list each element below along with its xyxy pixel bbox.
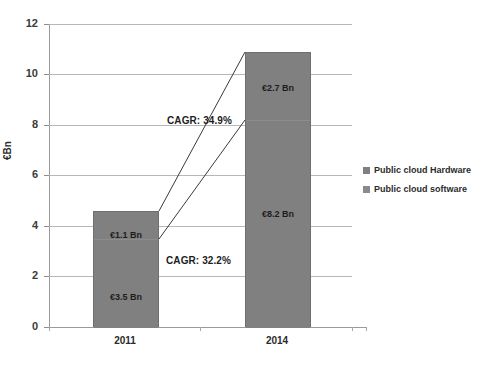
bar-2014[interactable]: €2.7 Bn €8.2 Bn (245, 52, 311, 327)
y-tick-label-0: 0 (32, 321, 38, 332)
bar-2014-hardware-label: €2.7 Bn (246, 83, 310, 93)
tick-mark-2 (44, 276, 49, 277)
y-tick-6: 6 (0, 169, 38, 181)
y-tick-10: 10 (0, 68, 38, 80)
legend-item-hardware[interactable]: Public cloud Hardware (363, 166, 483, 175)
x-tick-mid (200, 327, 201, 331)
stacked-bar-chart: €Bn 12 10 8 6 4 2 0 €1.1 Bn (0, 0, 486, 369)
y-tick-label-8: 8 (32, 119, 38, 130)
bar-2011-segment-software[interactable]: €3.5 Bn (94, 240, 158, 328)
tick-mark-8 (44, 125, 49, 126)
x-category-2014: 2014 (244, 335, 310, 346)
legend-label-software: Public cloud software (374, 185, 467, 194)
tick-mark-12 (44, 24, 49, 25)
y-tick-label-12: 12 (26, 18, 38, 29)
plot-area: €1.1 Bn €3.5 Bn €2.7 Bn €8.2 Bn (49, 24, 352, 327)
x-category-2011: 2011 (92, 335, 158, 346)
legend-swatch-icon-hardware (363, 167, 370, 174)
y-tick-0: 0 (0, 321, 38, 333)
y-tick-12: 12 (0, 18, 38, 30)
bar-2014-segment-hardware[interactable]: €2.7 Bn (246, 53, 310, 121)
bar-2011-software-label: €3.5 Bn (94, 292, 158, 302)
y-tick-label-6: 6 (32, 169, 38, 180)
tick-mark-10 (44, 74, 49, 75)
bar-2011-hardware-label: €1.1 Bn (94, 230, 158, 240)
x-tick-far (366, 327, 367, 331)
y-tick-8: 8 (0, 119, 38, 131)
y-tick-label-4: 4 (32, 220, 38, 231)
bar-2011-segment-hardware[interactable]: €1.1 Bn (94, 212, 158, 240)
y-tick-4: 4 (0, 220, 38, 232)
y-tick-2: 2 (0, 270, 38, 282)
x-tick-start (49, 327, 50, 331)
bar-2011[interactable]: €1.1 Bn €3.5 Bn (93, 211, 159, 327)
y-tick-label-2: 2 (32, 270, 38, 281)
tick-mark-4 (44, 226, 49, 227)
bar-2014-segment-software[interactable]: €8.2 Bn (246, 121, 310, 328)
legend-item-software[interactable]: Public cloud software (363, 185, 483, 194)
gridline-12 (49, 24, 352, 25)
cagr-annotation-upper: CAGR: 34.9% (167, 115, 232, 126)
tick-mark-6 (44, 175, 49, 176)
x-tick-end (352, 327, 353, 331)
bar-2014-software-label: €8.2 Bn (246, 209, 310, 219)
legend-label-hardware: Public cloud Hardware (374, 166, 471, 175)
cagr-annotation-lower: CAGR: 32.2% (163, 254, 234, 267)
legend-swatch-icon-software (363, 186, 370, 193)
y-tick-label-10: 10 (26, 68, 38, 79)
chart-legend: Public cloud Hardware Public cloud softw… (363, 166, 483, 204)
